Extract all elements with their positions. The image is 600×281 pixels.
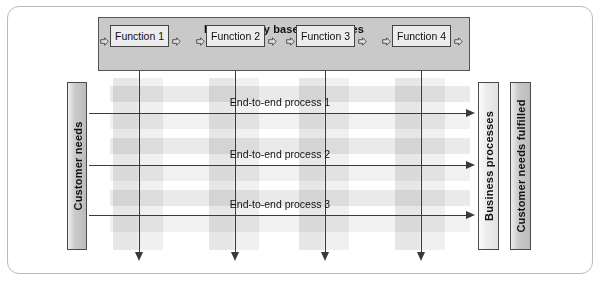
function-flow-arrowhead-1 [135, 252, 143, 261]
end-to-end-flow-arrowhead-1 [466, 109, 475, 117]
customer-needs-fulfilled-bar: Customer needs fulfilled [510, 82, 531, 250]
block-arrow-right-icon [454, 32, 463, 41]
block-arrow-right-icon [358, 32, 367, 41]
function-box-2[interactable]: Function 2 [206, 25, 265, 47]
grid-band-horizontal [110, 216, 470, 232]
end-to-end-flow-line-3 [89, 215, 466, 216]
end-to-end-flow-line-2 [89, 165, 466, 166]
end-to-end-flow-arrowhead-2 [466, 161, 475, 169]
function-flow-line-1 [139, 71, 140, 252]
block-arrow-right-icon [286, 32, 295, 41]
function-flow-arrowhead-2 [231, 252, 239, 261]
business-processes-bar: Business processes [478, 82, 499, 250]
end-to-end-flow-line-1 [89, 113, 466, 114]
function-flow-arrowhead-3 [321, 252, 329, 261]
end-to-end-flow-arrowhead-3 [466, 211, 475, 219]
block-arrow-right-icon [196, 32, 205, 41]
customer-needs-fulfilled-bar-label: Customer needs fulfilled [515, 99, 527, 232]
end-to-end-process-label-2: End-to-end process 2 [180, 148, 380, 160]
end-to-end-process-label-1: End-to-end process 1 [180, 96, 380, 108]
customer-needs-bar-label: Customer needs [71, 122, 83, 211]
function-flow-line-4 [421, 71, 422, 252]
function-box-1[interactable]: Function 1 [110, 25, 169, 47]
customer-needs-bar: Customer needs [67, 82, 87, 250]
grid-band-horizontal [110, 113, 470, 129]
block-arrow-right-icon [172, 32, 181, 41]
grid-band-horizontal [110, 165, 470, 181]
function-box-4[interactable]: Function 4 [392, 25, 451, 47]
function-flow-arrowhead-4 [417, 252, 425, 261]
block-arrow-right-icon [100, 32, 109, 41]
block-arrow-right-icon [382, 32, 391, 41]
business-processes-bar-label: Business processes [483, 111, 495, 221]
diagram-canvas: Functionally based processes Function 1F… [0, 0, 600, 281]
block-arrow-right-icon [268, 32, 277, 41]
end-to-end-process-label-3: End-to-end process 3 [180, 198, 380, 210]
function-box-3[interactable]: Function 3 [296, 25, 355, 47]
